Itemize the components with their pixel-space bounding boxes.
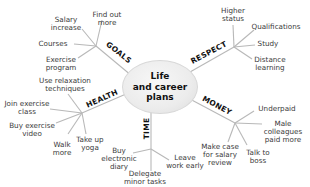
leaf-leave-work-early: Leave work early [166,154,204,170]
leaf-study: Study [258,40,279,48]
leaf-walk-more: Walk more [53,141,72,157]
leaf-talk-to-boss: Talk to boss [246,149,269,165]
leaf-delegate-minor-tasks: Delegate minor tasks [124,170,166,186]
leaf-courses: Courses [39,40,68,48]
leaf-distance-learning: Distance learning [254,56,285,72]
leaf-higher-status: Higher status [221,7,245,23]
leaf-underpaid: Underpaid [258,105,295,113]
leaf-make-case-for-salary-review: Make case for salary review [201,143,239,167]
center-node: Life and career plans [122,60,198,114]
leaf-buy-electronic-diary: Buy electronic diary [101,147,136,171]
leaf-exercise-program: Exercise program [46,56,77,72]
mind-map: Life and career plans GOALS RESPECT HEAL… [0,0,310,187]
leaf-salary-increase: Salary increase [51,16,81,32]
leaf-take-up-yoga: Take up yoga [76,136,103,152]
leaf-use-relaxation-techniques: Use relaxation techniques [39,77,91,93]
leaf-join-exercise-class: Join exercise class [4,100,49,116]
leaf-buy-exercise-video: Buy exercise video [9,122,55,138]
branch-time: TIME [142,118,151,140]
leaf-find-out-more: Find out more [93,11,122,27]
center-label: Life and career plans [133,71,188,103]
leaf-male-colleagues-paid-more: Male colleagues paid more [264,120,302,144]
leaf-qualifications: Qualifications [251,23,300,31]
